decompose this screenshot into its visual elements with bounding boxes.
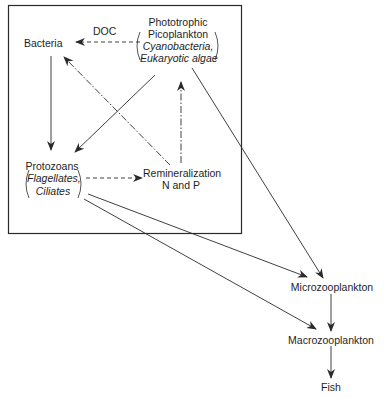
node-picoplankton-example1: Cyanobacteria, (142, 40, 214, 52)
edge-label-doc: DOC (93, 25, 116, 37)
node-fish: Fish (316, 381, 346, 393)
node-protozoans-line1: Protozoans (24, 160, 80, 172)
node-remineralization-line1: Remineralization (143, 167, 219, 179)
node-picoplankton-example2: Eukaryotic algae (140, 52, 216, 64)
node-protozoans-example1: Flagellates, (27, 172, 79, 184)
node-picoplankton-line1: Phototrophic (148, 16, 208, 28)
edge-remineralization-to-bacteria (64, 57, 170, 165)
node-microzooplankton: Microzooplankton (290, 281, 374, 293)
edge-protozoans-to-microzooplankton (88, 194, 307, 277)
node-picoplankton-line2: Picoplankton (148, 28, 208, 40)
node-protozoans-example2: Ciliates (27, 185, 79, 197)
node-macrozooplankton: Macrozooplankton (287, 334, 375, 346)
node-remineralization-line2: N and P (143, 179, 219, 191)
edge-picoplankton-to-protozoans (75, 75, 155, 152)
node-bacteria: Bacteria (24, 37, 63, 49)
edge-protozoans-to-macrozooplankton (84, 199, 316, 329)
